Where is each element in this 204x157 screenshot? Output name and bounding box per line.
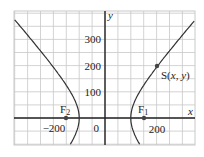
hyperbola-diagram: y x 300 200 100 0 −200 200 F2 F1 S(x, y) [0,0,204,157]
y-axis-label: y [107,9,113,21]
point-s [155,64,159,68]
x-tick-neg200: −200 [43,122,66,134]
y-tick-100: 100 [85,86,102,98]
y-tick-300: 300 [85,33,102,45]
point-s-label: S(x, y) [161,69,190,82]
origin-label: 0 [94,122,100,134]
x-axis-label: x [187,105,193,117]
y-tick-200: 200 [85,60,102,72]
x-tick-200: 200 [149,123,166,135]
